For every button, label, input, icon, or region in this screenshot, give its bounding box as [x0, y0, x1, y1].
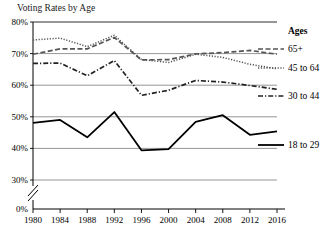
- x-tick-label: 1996: [132, 215, 151, 225]
- y-tick-label: 40%: [12, 143, 29, 153]
- chart-plot-area: 0%30%40%50%60%70%80% 1980198419881992199…: [0, 0, 335, 231]
- series-line-18-to-29: [33, 112, 277, 150]
- y-tick-label: 60%: [12, 80, 29, 90]
- x-tick-label: 2016: [268, 215, 287, 225]
- x-tick-label: 2000: [160, 215, 179, 225]
- x-tick-label: 1980: [24, 215, 43, 225]
- x-axis: 1980198419881992199620002004200820122016: [24, 209, 287, 225]
- y-tick-label: 70%: [12, 49, 29, 59]
- legend-label-18-to-29: 18 to 29: [288, 140, 319, 150]
- legend-label-30-to-44: 30 to 44: [288, 91, 319, 101]
- x-tick-label: 1984: [51, 215, 70, 225]
- x-tick-label: 1988: [78, 215, 97, 225]
- x-tick-label: 2008: [214, 215, 233, 225]
- x-tick-label: 2004: [187, 215, 206, 225]
- legend-label-45-to-64: 45 to 64: [288, 63, 319, 73]
- axis-break-mark: [28, 185, 38, 196]
- y-tick-label: 80%: [12, 17, 29, 27]
- y-tick-label: 0%: [16, 204, 29, 214]
- y-axis: 0%30%40%50%60%70%80%: [12, 17, 39, 214]
- legend-heading: Ages: [288, 26, 308, 36]
- x-tick-label: 1992: [105, 215, 123, 225]
- legend-label-65-plus: 65+: [288, 44, 303, 54]
- axis-break-mark: [28, 190, 38, 201]
- gridlines: [33, 22, 277, 180]
- voting-rates-chart: Voting Rates by Age 0%30%40%50%60%70%80%…: [0, 0, 335, 231]
- x-tick-label: 2012: [241, 215, 259, 225]
- data-series-group: [33, 35, 284, 150]
- y-tick-label: 50%: [12, 112, 29, 122]
- y-tick-label: 30%: [12, 175, 29, 185]
- series-line-30-to-44: [33, 61, 277, 96]
